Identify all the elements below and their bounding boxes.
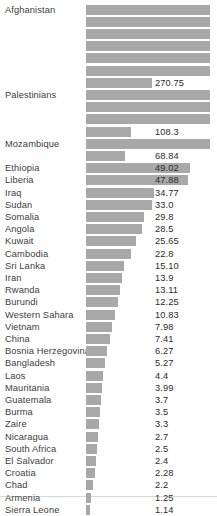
category-label: Sri Lanka (5, 261, 45, 271)
category-label: Vietnam (5, 322, 40, 332)
chart-row: Iran13.9 (0, 272, 217, 284)
value-label: 33.0 (155, 200, 174, 210)
value-label: 28.5 (155, 224, 174, 234)
chart-row: Western Sahara10.83 (0, 309, 217, 321)
bar (86, 322, 112, 332)
bar (86, 480, 93, 490)
category-label: Palestinians (5, 90, 56, 100)
value-label: 6.27 (155, 346, 174, 356)
chart-row: Rwanda13.11 (0, 284, 217, 296)
category-label: Zaire (5, 419, 27, 429)
chart-row: Sri Lanka15.10 (0, 260, 217, 272)
bar (86, 346, 107, 356)
value-label: 3.99 (155, 383, 174, 393)
chart-row: Iraq34.77 (0, 187, 217, 199)
category-label: Afghanistan (5, 5, 55, 15)
bar (86, 78, 152, 88)
bar (86, 5, 210, 15)
category-label: Mozambique (5, 139, 59, 149)
category-label: Mauritania (5, 383, 49, 393)
bar (86, 212, 144, 222)
value-label: 270.75 (155, 78, 184, 88)
value-label: 3.7 (155, 395, 168, 405)
chart-row (0, 40, 217, 52)
value-label: 5.27 (155, 358, 174, 368)
bar (86, 114, 210, 124)
bar (86, 29, 210, 39)
value-label: 49.02 (155, 163, 179, 173)
value-label: 13.9 (155, 273, 174, 283)
category-label: Sierra Leone (5, 505, 59, 515)
chart-row: Bangladesh5.27 (0, 357, 217, 369)
chart-row: Armenia1.25 (0, 492, 217, 504)
category-label: Iran (5, 273, 21, 283)
bar (86, 285, 120, 295)
category-label: Guatemala (5, 395, 51, 405)
value-label: 25.65 (155, 236, 179, 246)
bar (86, 358, 105, 368)
bar (86, 297, 118, 307)
chart-row: 270.75 (0, 77, 217, 89)
bar (86, 395, 101, 405)
bar (86, 224, 142, 234)
category-label: Chad (5, 480, 28, 490)
bar (86, 188, 154, 198)
category-label: Bangladesh (5, 358, 55, 368)
category-label: Iraq (5, 188, 21, 198)
value-label: 15.10 (155, 261, 179, 271)
category-label: Western Sahara (5, 310, 73, 320)
chart-row: Afghanistan (0, 4, 217, 16)
category-label: Ethiopia (5, 163, 39, 173)
bar (86, 419, 99, 429)
chart-row: Burundi12.25 (0, 296, 217, 308)
bar (86, 407, 100, 417)
bar (86, 468, 95, 478)
value-label: 2.7 (155, 432, 168, 442)
chart-row: South Africa2.5 (0, 443, 217, 455)
chart-row: Sudan33.0 (0, 199, 217, 211)
chart-row: China7.41 (0, 333, 217, 345)
chart-row: Somalia29.8 (0, 211, 217, 223)
category-label: Burma (5, 407, 33, 417)
bar (86, 139, 210, 149)
category-label: Liberia (5, 175, 34, 185)
chart-row: Mozambique (0, 138, 217, 150)
chart-row: Cambodia22.8 (0, 248, 217, 260)
bar (86, 66, 210, 76)
chart-row (0, 101, 217, 113)
value-label: 3.3 (155, 419, 168, 429)
chart-row: Burma3.5 (0, 406, 217, 418)
chart-row: Laos4.4 (0, 370, 217, 382)
value-label: 3.5 (155, 407, 168, 417)
bar (86, 371, 103, 381)
chart-row: Angola28.5 (0, 223, 217, 235)
chart-row: Liberia47.88 (0, 174, 217, 186)
category-label: China (5, 334, 30, 344)
bar (86, 432, 98, 442)
bar (86, 236, 136, 246)
bar (86, 127, 131, 137)
chart-row (0, 52, 217, 64)
category-label: Angola (5, 224, 35, 234)
chart-row: Palestinians (0, 89, 217, 101)
category-label: Bosnia Herzegovina (5, 346, 90, 356)
chart-row: 108.3 (0, 126, 217, 138)
chart-row: 68.84 (0, 150, 217, 162)
chart-row: Sierra Leone1.14 (0, 504, 217, 516)
chart-row: Ethiopia49.02 (0, 162, 217, 174)
value-label: 7.98 (155, 322, 174, 332)
value-label: 29.8 (155, 212, 174, 222)
category-label: Cambodia (5, 249, 48, 259)
chart-row: Chad2.2 (0, 479, 217, 491)
category-label: El Salvador (5, 456, 54, 466)
chart-row (0, 113, 217, 125)
value-label: 1.25 (155, 493, 174, 503)
value-label: 12.25 (155, 297, 179, 307)
chart-row (0, 65, 217, 77)
bar (86, 383, 102, 393)
bar (86, 249, 131, 259)
value-label: 47.88 (155, 175, 179, 185)
bar (86, 90, 210, 100)
category-label: South Africa (5, 444, 56, 454)
